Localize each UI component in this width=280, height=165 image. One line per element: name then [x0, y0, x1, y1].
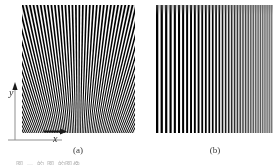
- panel-b-top-shading: [156, 5, 273, 15]
- panel-b-chirp-grating: [156, 5, 273, 133]
- figure-container: y x (a) (b) 图 — 的 图 的图像: [0, 0, 280, 165]
- x-axis-label: x: [53, 134, 57, 144]
- panel-b-caption: (b): [185, 146, 245, 155]
- panel-b-fade-overlay: [156, 5, 273, 133]
- panel-a-radial-grating: [22, 5, 135, 133]
- panel-a-caption: (a): [48, 146, 108, 155]
- y-axis-label: y: [9, 88, 13, 98]
- panel-a-vignette: [22, 5, 135, 133]
- clipped-footer-text: 图 — 的 图 的图像: [16, 159, 268, 165]
